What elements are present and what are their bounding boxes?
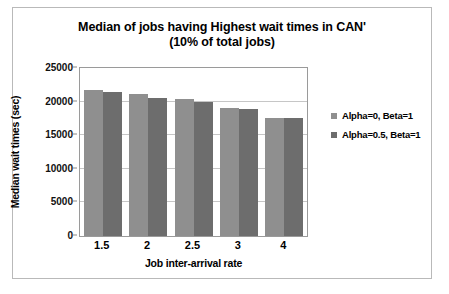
y-tick-label: 20000 [45, 95, 73, 106]
x-tick-label: 1.5 [94, 239, 109, 251]
y-axis-tick-labels: 0500010000150002000025000 [33, 67, 77, 237]
bar[interactable] [103, 92, 122, 236]
y-tick-mark [73, 235, 77, 236]
chart-title-line2: (10% of total jobs) [13, 35, 431, 50]
bar[interactable] [84, 90, 103, 236]
x-axis-title: Job inter-arrival rate [79, 257, 308, 269]
chart-title: Median of jobs having Highest wait times… [13, 20, 431, 50]
y-tick-label: 25000 [45, 62, 73, 73]
plot-area [79, 67, 308, 237]
legend-label: Alpha=0.5, Beta=1 [342, 129, 420, 140]
bar-group [129, 68, 167, 236]
x-axis-tick-labels: 1.522.534 [79, 239, 308, 255]
bar-group [84, 68, 122, 236]
y-tick-mark [73, 67, 77, 68]
y-tick-label: 15000 [45, 129, 73, 140]
y-tick-mark [73, 100, 77, 101]
bar[interactable] [220, 108, 239, 236]
x-tick-label: 2 [144, 239, 150, 251]
y-tick-label: 10000 [45, 162, 73, 173]
bar[interactable] [265, 118, 284, 236]
bar[interactable] [148, 98, 167, 236]
y-tick-mark [73, 167, 77, 168]
y-axis-title: Median wait times (sec) [9, 67, 25, 237]
legend-swatch-icon [331, 132, 337, 138]
x-tick-label: 2.5 [185, 239, 200, 251]
x-tick-label: 3 [235, 239, 241, 251]
legend-label: Alpha=0, Beta=1 [342, 110, 413, 121]
bar[interactable] [129, 94, 148, 236]
bar[interactable] [194, 102, 213, 236]
legend-item[interactable]: Alpha=0.5, Beta=1 [331, 127, 431, 142]
legend-swatch-icon [331, 113, 337, 119]
chart-title-line1: Median of jobs having Highest wait times… [78, 20, 366, 34]
bar[interactable] [284, 118, 303, 236]
bar[interactable] [175, 99, 194, 236]
bar-group [265, 68, 303, 236]
x-tick-label: 4 [280, 239, 286, 251]
bar[interactable] [239, 109, 258, 236]
bar-group [220, 68, 258, 236]
y-tick-mark [73, 134, 77, 135]
y-tick-mark [73, 201, 77, 202]
legend-item[interactable]: Alpha=0, Beta=1 [331, 108, 431, 123]
chart-legend: Alpha=0, Beta=1Alpha=0.5, Beta=1 [331, 108, 431, 146]
bar-group [175, 68, 213, 236]
y-tick-label: 5000 [51, 196, 73, 207]
chart-frame: Median of jobs having Highest wait times… [12, 7, 432, 279]
